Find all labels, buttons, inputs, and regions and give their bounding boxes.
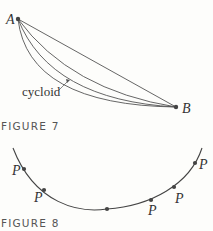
- point-p-3: [149, 198, 153, 202]
- point-p-3-label: P: [147, 203, 157, 218]
- point-b: [174, 105, 178, 109]
- figure-8-caption: FIGURE 8: [1, 217, 60, 229]
- point-p-5-label: P: [198, 157, 208, 172]
- point-p-1: [22, 167, 26, 171]
- cycloid-label: cycloid: [22, 84, 61, 99]
- point-p-2-label: P: [33, 190, 43, 205]
- point-a: [16, 17, 20, 21]
- point-a-label: A: [5, 12, 15, 27]
- point-p-5: [193, 161, 197, 165]
- figure-7-caption: FIGURE 7: [1, 120, 60, 132]
- point-bottom: [105, 207, 109, 211]
- point-p-4: [172, 185, 176, 189]
- figures-canvas: A B cycloid P P P P P: [0, 0, 213, 231]
- point-b-label: B: [182, 101, 191, 116]
- point-p-4-label: P: [174, 191, 184, 206]
- point-p-1-label: P: [11, 163, 21, 178]
